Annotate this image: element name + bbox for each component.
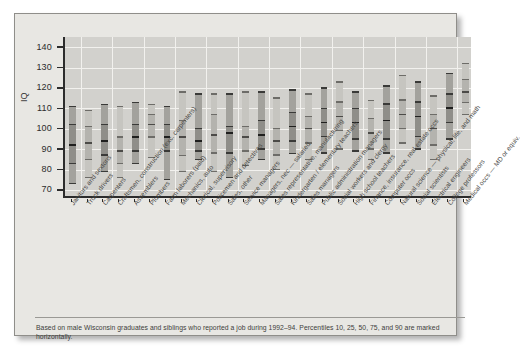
median-mark	[242, 136, 249, 138]
y-axis-tick-mark	[57, 46, 63, 48]
percentile-mark-p25	[132, 150, 139, 151]
x-axis-tick-mark	[416, 199, 417, 202]
percentile-mark-p90	[383, 85, 390, 86]
box-plot-bar	[148, 104, 155, 157]
percentile-mark-p75	[85, 126, 92, 127]
percentile-mark-p25	[69, 163, 76, 164]
y-axis-tick-mark	[57, 67, 63, 69]
percentile-mark-p75	[352, 108, 359, 109]
whisker-upper	[132, 102, 139, 124]
whisker-lower	[164, 151, 171, 180]
percentile-mark-p75	[273, 128, 280, 129]
percentile-mark-p75	[305, 116, 312, 117]
percentile-mark-p25	[148, 136, 155, 137]
median-mark	[462, 91, 469, 93]
whisker-upper	[85, 110, 92, 126]
median-mark	[117, 150, 124, 152]
percentile-mark-p75	[69, 124, 76, 125]
percentile-mark-p90	[148, 104, 155, 105]
percentile-mark-p25	[117, 163, 124, 164]
x-axis-tick-mark	[87, 199, 88, 202]
median-mark	[258, 134, 265, 136]
median-mark	[399, 114, 406, 116]
box-plot-bar	[85, 110, 92, 177]
whisker-upper	[242, 92, 249, 127]
grid-line-horizontal	[65, 68, 471, 69]
x-axis-tick-mark	[369, 199, 370, 202]
median-mark	[383, 120, 390, 122]
median-mark	[446, 107, 453, 109]
interquartile-box	[148, 114, 155, 136]
percentile-mark-p25	[195, 150, 202, 151]
y-axis-label: IQ	[19, 92, 29, 102]
percentile-mark-p90	[179, 91, 186, 92]
interquartile-box	[132, 125, 139, 152]
x-axis-tick-mark	[463, 199, 464, 202]
box-plot-bar	[462, 64, 469, 115]
whisker-lower	[289, 141, 296, 153]
percentile-mark-p75	[211, 114, 218, 115]
percentile-mark-p90	[211, 93, 218, 94]
whisker-upper	[336, 82, 343, 102]
x-axis-tick-mark	[134, 199, 135, 202]
percentile-mark-p90	[352, 91, 359, 92]
percentile-mark-p90	[132, 102, 139, 103]
percentile-mark-p75	[132, 124, 139, 125]
interquartile-box	[305, 116, 312, 143]
box-plot-bar	[211, 94, 218, 171]
median-mark	[226, 132, 233, 134]
percentile-mark-p10	[69, 183, 76, 184]
x-axis-tick-mark	[291, 199, 292, 202]
whisker-upper	[164, 106, 171, 124]
interquartile-box	[242, 127, 249, 152]
interquartile-box	[226, 127, 233, 154]
box-plot-bar	[132, 102, 139, 163]
percentile-mark-p90	[446, 73, 453, 74]
whisker-upper	[368, 100, 375, 118]
whisker-lower	[69, 163, 76, 183]
whisker-upper	[101, 104, 108, 124]
percentile-mark-p75	[289, 112, 296, 113]
percentile-mark-p90	[85, 110, 92, 111]
x-axis-tick-mark	[181, 199, 182, 202]
box-plot-bar	[179, 92, 186, 172]
x-axis-tick-mark	[149, 199, 150, 202]
median-mark	[101, 140, 108, 142]
y-axis-tick-label: 70	[22, 185, 52, 194]
median-mark	[321, 122, 328, 124]
percentile-mark-p25	[462, 102, 469, 103]
median-mark	[85, 142, 92, 144]
percentile-mark-p90	[305, 93, 312, 94]
x-axis-tick-mark	[196, 199, 197, 202]
percentile-mark-p90	[101, 104, 108, 105]
median-mark	[132, 136, 139, 138]
whisker-upper	[399, 76, 406, 101]
whisker-upper	[117, 106, 124, 137]
x-axis-tick-mark	[353, 199, 354, 202]
grid-line-horizontal	[65, 47, 471, 48]
x-axis-tick-mark	[400, 199, 401, 202]
percentile-mark-p10	[132, 163, 139, 164]
percentile-mark-p25	[289, 140, 296, 141]
x-axis-tick-mark	[432, 199, 433, 202]
whisker-lower	[399, 129, 406, 143]
x-axis-tick-mark	[212, 199, 213, 202]
median-mark	[195, 140, 202, 142]
x-axis-tick-mark	[306, 199, 307, 202]
median-mark	[289, 126, 296, 128]
grid-line-vertical	[175, 37, 176, 196]
y-axis-tick-label: 120	[22, 83, 52, 92]
median-mark	[211, 134, 218, 136]
percentile-mark-p25	[399, 128, 406, 129]
y-axis-tick-mark	[57, 148, 63, 150]
whisker-upper	[352, 92, 359, 108]
box-plot-bar	[289, 90, 296, 153]
grid-line-horizontal	[65, 88, 471, 89]
median-mark	[69, 144, 76, 146]
percentile-mark-p75	[148, 114, 155, 115]
whisker-upper	[383, 86, 390, 104]
percentile-mark-p25	[179, 155, 186, 156]
whisker-upper	[69, 106, 76, 124]
y-axis-tick-label: 140	[22, 43, 52, 52]
y-axis-tick-label: 110	[22, 104, 52, 113]
